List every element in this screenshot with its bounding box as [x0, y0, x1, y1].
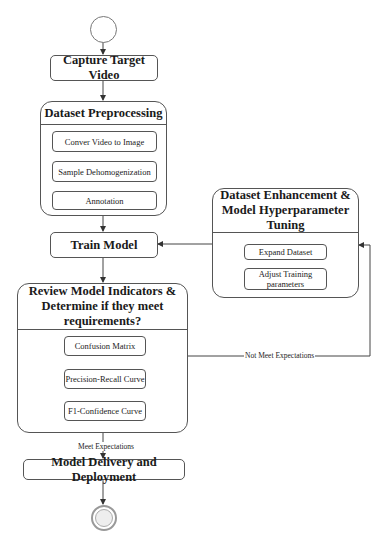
review-model-group: Review Model Indicators & Determine if t…: [17, 283, 188, 433]
capture-target-video-node: Capture Target Video: [50, 55, 158, 81]
capture-label: Capture Target Video: [51, 53, 157, 83]
model-delivery-node: Model Delivery and Deployment: [23, 459, 185, 480]
step-dehomogenization: Sample Dehomogenization: [52, 161, 157, 182]
train-model-node: Train Model: [50, 232, 158, 258]
meet-expectations-label: Meet Expectations: [77, 442, 135, 451]
step-f1-confidence: F1-Confidence Curve: [64, 401, 146, 421]
train-label: Train Model: [71, 238, 138, 253]
step-adjust-training: Adjust Training parameters: [244, 268, 327, 290]
delivery-label: Model Delivery and Deployment: [24, 455, 184, 485]
step-confusion-matrix: Confusion Matrix: [64, 336, 146, 356]
enhancement-title: Dataset Enhancement & Model Hyperparamet…: [213, 189, 358, 233]
review-title: Review Model Indicators & Determine if t…: [18, 284, 187, 330]
not-meet-expectations-label: Not Meet Expectations: [244, 351, 315, 360]
step-convert-video: Conver Video to Image: [52, 131, 157, 152]
step-annotation: Annotation: [52, 191, 157, 210]
preprocessing-title: Dataset Preprocessing: [41, 102, 166, 125]
end-node: [91, 505, 117, 531]
end-node-inner: [95, 509, 113, 527]
dataset-enhancement-group: Dataset Enhancement & Model Hyperparamet…: [212, 188, 359, 298]
step-expand-dataset: Expand Dataset: [244, 244, 327, 260]
dataset-preprocessing-group: Dataset Preprocessing Conver Video to Im…: [40, 101, 167, 216]
step-precision-recall: Precision-Recall Curve: [64, 369, 146, 389]
start-node: [90, 16, 117, 43]
